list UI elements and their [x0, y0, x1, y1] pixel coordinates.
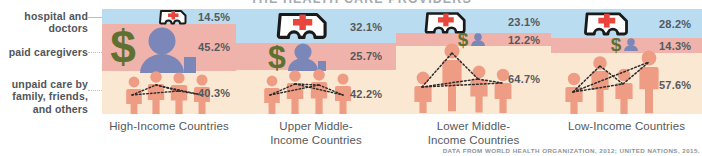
caption-low-income: Low-Income Countries [551, 120, 702, 134]
leader-line-paid [88, 52, 102, 53]
source-note: DATA FROM WORLD HEALTH ORGANIZATION, 201… [443, 147, 700, 154]
caption-line2: Income Countries [396, 134, 551, 148]
ambulance-icon [278, 9, 330, 42]
caption-lower-middle-income: Lower Middle- Income Countries [396, 120, 551, 147]
stacked-bar-plot: $ [102, 9, 702, 114]
category-label-unpaid-line2: family, friends, [0, 90, 88, 102]
value-paid: 25.7% [350, 50, 382, 62]
value-paid: 12.2% [508, 34, 540, 46]
column-low-income: $ [551, 9, 702, 114]
category-label-unpaid: unpaid care by family, friends, and othe… [0, 78, 88, 115]
dotted-network-icon [422, 53, 502, 87]
column-upper-middle-income: $ [236, 9, 396, 114]
dotted-network-icon [270, 84, 343, 95]
category-label-hospital-line2: doctors [0, 22, 88, 34]
caption-high-income: High-Income Countries [102, 120, 236, 134]
value-unpaid: 40.3% [198, 87, 230, 99]
family-figures-icon [264, 69, 358, 114]
family-figures-icon [565, 50, 663, 114]
value-hospital: 32.1% [350, 21, 382, 33]
svg-text:$: $ [110, 21, 136, 73]
leader-line-hospital [88, 17, 102, 18]
caption-upper-middle-income: Upper Middle- Income Countries [236, 120, 396, 147]
value-unpaid: 57.6% [659, 79, 691, 91]
value-paid: 14.3% [659, 40, 691, 52]
infographic-root: THE HEALTH CARE PROVIDERS hospital and d… [0, 0, 702, 156]
dollar-sign-icon: $ [266, 42, 288, 72]
value-hospital: 23.1% [508, 16, 540, 28]
category-label-paid: paid caregivers [0, 46, 88, 58]
paid-caregiver-person-icon [138, 27, 196, 73]
ambulance-icon [160, 8, 188, 26]
caption-line1: High-Income Countries [102, 120, 236, 134]
category-label-hospital: hospital and doctors [0, 10, 88, 35]
ambulance-icon [585, 9, 631, 38]
value-unpaid: 42.2% [350, 88, 382, 100]
value-unpaid: 64.7% [508, 73, 540, 85]
caption-line1: Lower Middle- [396, 120, 551, 134]
category-label-hospital-line1: hospital and [0, 10, 88, 22]
leader-line-unpaid [88, 90, 102, 91]
page-title: THE HEALTH CARE PROVIDERS [231, 0, 491, 6]
value-hospital: 28.2% [659, 18, 691, 30]
value-hospital: 14.5% [198, 11, 230, 23]
dotted-network-icon [573, 62, 649, 92]
family-figures-icon [414, 43, 514, 113]
paid-caregiver-person-icon [286, 43, 326, 71]
value-paid: 45.2% [198, 41, 230, 53]
caption-line2: Income Countries [236, 134, 396, 148]
column-high-income: $ [102, 9, 236, 114]
caption-line1: Upper Middle- [236, 120, 396, 134]
category-label-unpaid-line3: and others [0, 103, 88, 115]
dotted-network-icon [132, 85, 202, 95]
caption-line1: Low-Income Countries [551, 120, 702, 134]
category-label-unpaid-line1: unpaid care by [0, 78, 88, 90]
column-lower-middle-income: $ [396, 9, 551, 114]
dollar-sign-icon: $ [108, 26, 138, 70]
